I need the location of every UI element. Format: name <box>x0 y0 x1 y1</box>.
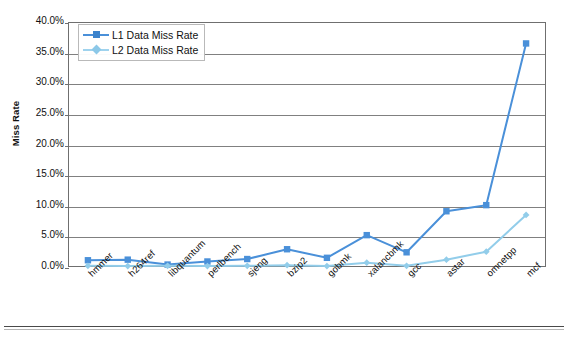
data-point-marker <box>403 249 409 255</box>
y-axis-tick-labels: 40.0%35.0%30.0%25.0%20.0%15.0%10.0%5.0%0… <box>16 0 64 338</box>
data-point-marker <box>523 40 529 46</box>
y-tick-label: 35.0% <box>16 47 64 57</box>
y-tick-label: 0.0% <box>16 261 64 271</box>
legend-swatch-l2-icon <box>83 44 109 56</box>
page-divider-rule-shadow <box>4 329 564 330</box>
data-point-marker <box>125 256 131 262</box>
data-point-marker <box>364 232 370 238</box>
y-tick-label: 20.0% <box>16 139 64 149</box>
data-point-marker <box>284 246 290 252</box>
data-point-marker <box>483 202 489 208</box>
x-axis-category-labels: hmmerh264reflibquantumperlbenchsjengbzip… <box>68 267 546 329</box>
y-tick-label: 30.0% <box>16 77 64 87</box>
miss-rate-line-chart: Miss Rate 40.0%35.0%30.0%25.0%20.0%15.0%… <box>0 0 570 338</box>
y-tick-label: 10.0% <box>16 200 64 210</box>
legend-label-l1: L1 Data Miss Rate <box>109 29 198 41</box>
legend-swatch-l1-icon <box>83 29 109 41</box>
data-point-marker <box>324 255 330 261</box>
y-tick-label: 40.0% <box>16 16 64 26</box>
legend-item-l1: L1 Data Miss Rate <box>83 27 198 42</box>
y-tick-label: 15.0% <box>16 169 64 179</box>
data-point-marker <box>443 256 450 263</box>
chart-legend: L1 Data Miss Rate L2 Data Miss Rate <box>78 24 205 61</box>
legend-item-l2: L2 Data Miss Rate <box>83 42 198 57</box>
data-point-marker <box>244 256 250 262</box>
page-divider-rule <box>4 326 564 327</box>
legend-label-l2: L2 Data Miss Rate <box>109 44 198 56</box>
y-tick-label: 5.0% <box>16 230 64 240</box>
y-tick-label: 25.0% <box>16 108 64 118</box>
data-point-marker <box>443 208 449 214</box>
series-line-l1 <box>88 43 526 264</box>
